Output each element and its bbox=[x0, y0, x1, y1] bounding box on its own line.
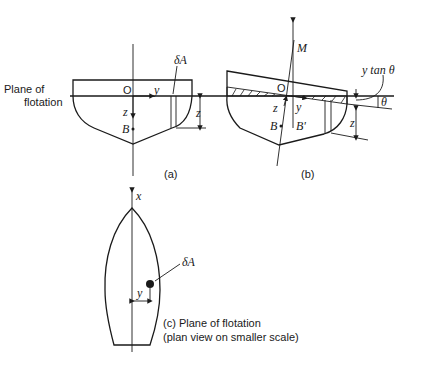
hull-a-outline bbox=[73, 80, 192, 144]
plane-label-2: flotation bbox=[24, 96, 63, 108]
caption-c-line2: (plan view on smaller scale) bbox=[163, 331, 299, 343]
hull-b-outline bbox=[227, 71, 347, 145]
buoyancy-point-b bbox=[280, 125, 283, 128]
origin-label-a: O bbox=[123, 84, 132, 96]
y-label-b: y bbox=[295, 100, 302, 114]
depth-label-b: z bbox=[349, 116, 355, 130]
figure-b-heeled-hull: M O y z B B' y tan θ θ z (b) bbox=[212, 20, 395, 180]
b-label-a: B bbox=[122, 122, 130, 136]
z-label-b: z bbox=[272, 101, 278, 115]
tilted-centreline-b bbox=[277, 40, 294, 166]
m-label: M bbox=[296, 41, 308, 55]
plane-label-1: Plane of bbox=[4, 83, 45, 95]
delta-a-label-a: δA bbox=[174, 53, 188, 67]
figure-c-plan-view: x δA y (c) Plane of flotation (plan view… bbox=[105, 189, 299, 352]
y-label-a: y bbox=[153, 83, 160, 97]
hydrostatic-stability-diagram: Plane of flotation O y z B δA z (a) bbox=[0, 0, 424, 371]
buoyancy-point-a bbox=[132, 128, 135, 131]
figure-a-upright-hull: Plane of flotation O y z B δA z (a) bbox=[4, 44, 212, 180]
origin-label-b: O bbox=[277, 82, 286, 94]
x-label-c: x bbox=[135, 189, 142, 203]
b-label-b: B bbox=[270, 119, 278, 133]
caption-c-line1: (c) Plane of flotation bbox=[163, 317, 261, 329]
hull-plan-outline bbox=[105, 208, 160, 345]
z-label-a: z bbox=[122, 105, 128, 119]
y-label-c: y bbox=[136, 286, 143, 300]
caption-b: (b) bbox=[301, 168, 314, 180]
area-element-dot bbox=[146, 280, 154, 288]
b-prime-label: B' bbox=[296, 119, 306, 133]
ytan-label: y tan θ bbox=[361, 63, 395, 77]
theta-label: θ bbox=[381, 95, 387, 109]
caption-a: (a) bbox=[164, 168, 177, 180]
depth-extension-b bbox=[331, 133, 368, 140]
depth-label-a: z bbox=[195, 106, 201, 120]
delta-a-label-c: δA bbox=[182, 255, 196, 269]
